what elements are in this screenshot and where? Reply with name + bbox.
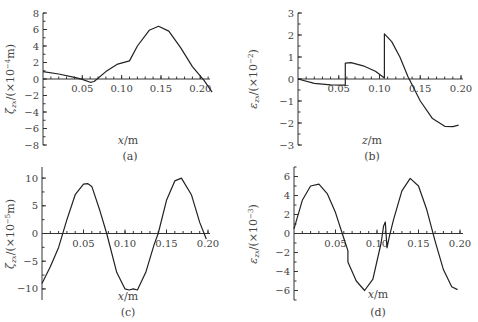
x-tick-label: 0.20 <box>189 83 211 94</box>
y-tick-label: 3 <box>288 8 294 19</box>
x-tick-label: 0.05 <box>324 238 346 249</box>
x-axis-label: z/m <box>361 134 383 147</box>
y-tick-label: −5 <box>23 256 38 267</box>
y-tick-label: −6 <box>24 123 39 134</box>
y-tick-label: 10 <box>25 173 38 184</box>
y-axis-label: εzx/(×10−2) <box>247 49 261 108</box>
y-tick-label: 0 <box>288 74 294 85</box>
x-axis-label: x/m <box>118 134 139 147</box>
x-axis-label: x/m <box>368 288 389 301</box>
y-tick-label: −10 <box>17 283 38 294</box>
x-axis-label: x/m <box>118 290 139 303</box>
y-axis-label: εzx/(×10−3) <box>247 204 261 263</box>
y-tick-label: 4 <box>284 190 290 201</box>
x-tick-label: 0.10 <box>366 238 388 249</box>
y-tick-label: 1 <box>288 52 294 63</box>
y-tick-label: 0 <box>32 228 38 239</box>
y-tick-label: 4 <box>33 41 39 52</box>
panel-a: 86420−2−4−6−80.050.100.150.20x/mζzx/(×10… <box>4 8 212 164</box>
y-axis-label: ζzx/(×10−5m) <box>4 199 18 269</box>
y-tick-label: −2 <box>275 247 290 258</box>
panel-caption: (a) <box>122 150 137 163</box>
panel-caption: (c) <box>121 306 136 319</box>
x-tick-label: 0.05 <box>71 83 93 94</box>
data-curve <box>298 34 459 127</box>
x-tick-label: 0.20 <box>450 83 472 94</box>
x-tick-label: 0.10 <box>111 83 133 94</box>
y-tick-label: 0 <box>284 228 290 239</box>
x-tick-label: 0.10 <box>114 238 136 249</box>
x-tick-label: 0.15 <box>155 238 177 249</box>
x-tick-label: 0.15 <box>407 238 429 249</box>
y-tick-label: −1 <box>279 96 294 107</box>
y-axis-label: ζzx/(×10−4m) <box>4 44 18 114</box>
panel-d: 6420−2−4−60.050.100.150.20x/mεzx/(×10−3)… <box>247 167 471 319</box>
panel-caption: (d) <box>370 306 386 319</box>
y-tick-label: 8 <box>33 8 39 19</box>
x-tick-label: 0.15 <box>150 83 172 94</box>
y-tick-label: −2 <box>279 118 294 129</box>
y-tick-label: 5 <box>32 200 38 211</box>
x-tick-label: 0.20 <box>449 238 471 249</box>
y-tick-label: 6 <box>33 24 39 35</box>
y-tick-label: 2 <box>284 209 290 220</box>
panel-caption: (b) <box>364 150 380 163</box>
y-tick-label: −2 <box>24 90 39 101</box>
y-tick-label: −3 <box>279 140 294 151</box>
y-tick-label: −8 <box>24 140 39 151</box>
y-tick-label: 6 <box>284 171 290 182</box>
panel-c: 1050−5−100.050.100.150.20x/mζzx/(×10−5m)… <box>4 167 219 319</box>
y-tick-label: 0 <box>33 74 39 85</box>
figure-panels: 86420−2−4−6−80.050.100.150.20x/mζzx/(×10… <box>0 0 478 322</box>
panel-b: 3210−1−2−30.050.100.150.20z/mεzx/(×10−2)… <box>247 8 472 164</box>
data-curve <box>42 178 206 290</box>
x-tick-label: 0.20 <box>197 238 219 249</box>
x-tick-label: 0.05 <box>72 238 94 249</box>
y-tick-label: 2 <box>288 30 294 41</box>
y-tick-label: −4 <box>275 266 290 277</box>
x-tick-label: 0.10 <box>368 83 390 94</box>
y-tick-label: 2 <box>33 57 39 68</box>
data-curve <box>294 178 458 290</box>
y-tick-label: −4 <box>24 107 39 118</box>
y-tick-label: −6 <box>275 285 290 296</box>
